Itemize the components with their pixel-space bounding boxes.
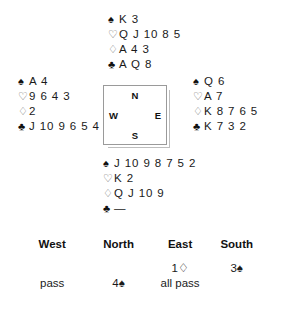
- hand-cards: J 10 9 8 7 5 2: [114, 156, 196, 171]
- hand-south: ♠ J 10 9 8 7 5 2 ♡ K 2 ♢ Q J 10 9 ♣ —: [103, 156, 196, 216]
- hand-row: ♠ K 3: [108, 12, 181, 27]
- spade-icon: ♠: [103, 156, 114, 171]
- hand-cards: K 7 3 2: [204, 119, 247, 134]
- compass-south-label: S: [132, 130, 138, 141]
- auction-header-east: East: [152, 238, 209, 260]
- bid-cell-east: all pass: [152, 276, 209, 290]
- club-icon: ♣: [18, 119, 29, 134]
- hand-cards: 2: [29, 104, 36, 119]
- compass-east-label: E: [155, 110, 161, 121]
- auction-header-north: North: [85, 238, 151, 260]
- hand-row: ♠ J 10 9 8 7 5 2: [103, 156, 196, 171]
- hand-row: ♣ K 7 3 2: [193, 119, 258, 134]
- heart-icon: ♡: [103, 171, 114, 186]
- hand-row: ♠ A 4: [18, 74, 100, 89]
- bid-cell-north: [85, 260, 151, 276]
- hand-cards: Q J 10 8 5: [119, 27, 181, 42]
- compass-west-label: W: [109, 110, 118, 121]
- hand-cards: J 10 9 6 5 4: [29, 119, 100, 134]
- bid-cell-west: pass: [19, 276, 85, 290]
- diamond-icon: ♢: [103, 186, 114, 201]
- club-icon: ♣: [193, 119, 204, 134]
- hand-cards: A 4: [29, 74, 48, 89]
- hand-row: ♠ Q 6: [193, 74, 258, 89]
- bid-cell-west: [19, 260, 85, 276]
- bid-cell-north: 4♠: [85, 276, 151, 290]
- hand-row: ♡ A 7: [193, 89, 258, 104]
- heart-icon: ♡: [108, 27, 119, 42]
- compass-north-label: N: [132, 90, 139, 101]
- heart-icon: ♡: [18, 89, 29, 104]
- hand-cards: K 3: [119, 12, 139, 27]
- auction-table: West North East South 1♢ 3♠ pass 4♠ all …: [0, 238, 286, 290]
- auction-header-west: West: [19, 238, 85, 260]
- spade-icon: ♠: [18, 74, 29, 89]
- hand-row: ♢ Q J 10 9: [103, 186, 196, 201]
- hand-row: ♢ A 4 3: [108, 42, 181, 57]
- hand-row: ♣ J 10 9 6 5 4: [18, 119, 100, 134]
- bid-cell-south: [208, 276, 265, 290]
- hand-west: ♠ A 4 ♡ 9 6 4 3 ♢ 2 ♣ J 10 9 6 5 4: [18, 74, 100, 134]
- auction-row: pass 4♠ all pass: [19, 276, 265, 290]
- diamond-icon: ♢: [18, 104, 29, 119]
- hand-row: ♣ A Q 8: [108, 57, 181, 72]
- auction-header-row: West North East South: [19, 238, 265, 260]
- hand-cards: Q J 10 9: [114, 186, 165, 201]
- hand-cards: A 4 3: [119, 42, 150, 57]
- hand-east: ♠ Q 6 ♡ A 7 ♢ K 8 7 6 5 ♣ K 7 3 2: [193, 74, 258, 134]
- hand-cards: Q 6: [204, 74, 225, 89]
- hand-cards: 9 6 4 3: [29, 89, 70, 104]
- hand-cards: A 7: [204, 89, 223, 104]
- spade-icon: ♠: [193, 74, 204, 89]
- spade-icon: ♠: [108, 12, 119, 27]
- diamond-icon: ♢: [193, 104, 204, 119]
- bid-cell-south: 3♠: [208, 260, 265, 276]
- club-icon: ♣: [103, 201, 114, 216]
- hand-row: ♢ 2: [18, 104, 100, 119]
- hand-cards: A Q 8: [119, 57, 152, 72]
- bid-cell-east: 1♢: [152, 260, 209, 276]
- auction-row: 1♢ 3♠: [19, 260, 265, 276]
- hand-row: ♡ Q J 10 8 5: [108, 27, 181, 42]
- diamond-icon: ♢: [108, 42, 119, 57]
- hand-row: ♣ —: [103, 201, 196, 216]
- hand-cards: —: [114, 201, 126, 216]
- hand-row: ♡ K 2: [103, 171, 196, 186]
- hand-cards: K 8 7 6 5: [204, 104, 258, 119]
- compass-box: N E S W: [103, 85, 167, 145]
- hand-row: ♡ 9 6 4 3: [18, 89, 100, 104]
- heart-icon: ♡: [193, 89, 204, 104]
- hand-row: ♢ K 8 7 6 5: [193, 104, 258, 119]
- club-icon: ♣: [108, 57, 119, 72]
- hand-north: ♠ K 3 ♡ Q J 10 8 5 ♢ A 4 3 ♣ A Q 8: [108, 12, 181, 72]
- auction-header-south: South: [208, 238, 265, 260]
- hand-cards: K 2: [114, 171, 134, 186]
